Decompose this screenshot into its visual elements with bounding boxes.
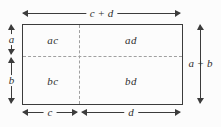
arrowhead-right-icon [175,109,181,116]
area-model-diagram: c + d a b a + b ac ad bc bd c [0,0,221,127]
dimension-label-c: c [44,107,57,118]
dimension-label-c-plus-d: c + d [86,8,117,19]
dimension-arrow-left-b: b [8,57,15,104]
quadrant-label-bd: bd [125,75,137,87]
dimension-arrow-top: c + d [22,10,181,17]
area-rectangle: ac ad bc bd [22,24,183,105]
horizontal-divider-dashed [23,56,182,57]
arrowhead-down-icon [8,98,15,104]
quadrant-label-ac: ac [47,34,58,46]
dimension-label-b: b [5,75,19,86]
dimension-arrow-bottom-d: d [81,109,181,116]
quadrant-label-bc: bc [47,75,58,87]
quadrant-label-ad: ad [125,34,137,46]
dimension-arrow-bottom-c: c [22,109,78,116]
dimension-label-d: d [124,107,138,118]
dimension-label-a-plus-b: a + b [188,58,214,69]
dimension-label-a: a [5,34,19,45]
arrowhead-down-icon [197,98,204,104]
arrowhead-right-icon [72,109,78,116]
dimension-arrow-left-a: a [8,24,15,55]
dimension-arrow-right: a + b [197,24,204,104]
vertical-divider-dashed [79,25,80,104]
arrowhead-right-icon [175,10,181,17]
arrowhead-down-icon [8,49,15,55]
